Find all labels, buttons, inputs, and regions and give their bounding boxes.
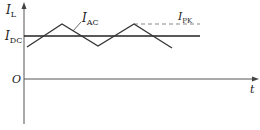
x-axis-arrow-icon [252,77,259,82]
x-axis-label: t [250,83,255,96]
diagram-canvas: IL IDC IAC IPK O t [0,0,260,130]
origin-label: O [12,73,21,86]
ac-label: IAC [81,11,99,27]
dc-label: IDC [4,29,22,45]
ac-leader-line [73,22,81,31]
y-axis-arrow-icon [22,2,27,9]
pk-label: IPK [177,10,193,25]
y-axis-label: IL [5,3,17,19]
